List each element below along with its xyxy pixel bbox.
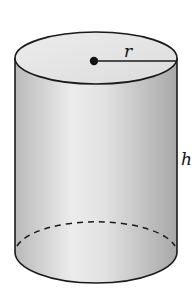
cylinder-diagram: r h xyxy=(0,0,196,303)
radius-label: r xyxy=(124,41,133,61)
height-label: h xyxy=(181,149,192,169)
cylinder-body xyxy=(15,58,177,283)
